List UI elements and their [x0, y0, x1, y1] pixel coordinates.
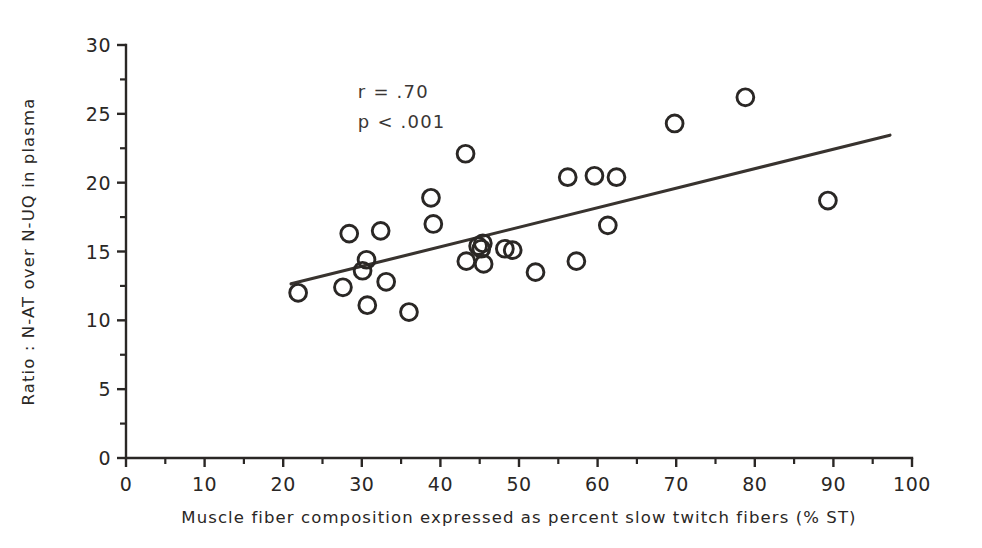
data-point	[599, 217, 616, 234]
axis-lines	[126, 45, 912, 458]
x-axis-tick-label: 80	[742, 473, 767, 495]
data-point	[666, 115, 683, 132]
annotation-correlation: r = .70	[358, 81, 429, 102]
annotation-pvalue: p < .001	[358, 111, 446, 132]
data-point	[568, 253, 585, 270]
x-axis-tick-label: 30	[349, 473, 374, 495]
data-point	[401, 304, 418, 321]
data-point	[586, 167, 603, 184]
data-point	[458, 253, 475, 270]
y-axis-tick-label: 20	[86, 172, 111, 194]
data-point	[290, 284, 307, 301]
data-point	[737, 89, 754, 106]
y-axis-tick-label: 25	[86, 103, 111, 125]
y-axis-tick-label: 15	[86, 241, 111, 263]
x-axis-tick-label: 60	[585, 473, 610, 495]
data-point	[559, 169, 576, 186]
data-point	[335, 279, 352, 296]
y-axis-title: Ratio : N-AT over N-UQ in plasma	[19, 98, 38, 406]
x-axis-tick-label: 70	[664, 473, 689, 495]
x-axis-tick-label: 0	[120, 473, 133, 495]
scatter-plot-figure: 0510152025300102030405060708090100r = .7…	[0, 0, 982, 548]
chart-canvas: 0510152025300102030405060708090100r = .7…	[0, 0, 982, 548]
data-point	[423, 189, 440, 206]
x-axis-tick-label: 100	[893, 473, 931, 495]
data-point	[425, 216, 442, 233]
y-axis-tick-label: 10	[86, 309, 111, 331]
data-point	[819, 192, 836, 209]
x-axis-tick-label: 20	[271, 473, 296, 495]
x-axis-tick-label: 40	[428, 473, 453, 495]
regression-line	[291, 135, 890, 284]
x-axis-tick-label: 10	[192, 473, 217, 495]
data-point	[378, 273, 395, 290]
x-axis-tick-label: 90	[821, 473, 846, 495]
x-axis-title: Muscle fiber composition expressed as pe…	[181, 508, 856, 527]
y-axis-tick-label: 30	[86, 34, 111, 56]
y-axis-tick-label: 5	[98, 378, 111, 400]
data-point	[341, 225, 358, 242]
data-point	[608, 169, 625, 186]
data-point	[372, 222, 389, 239]
y-axis-tick-label: 0	[98, 447, 111, 469]
x-axis-tick-label: 50	[506, 473, 531, 495]
data-point	[527, 264, 544, 281]
data-point	[359, 297, 376, 314]
data-point	[457, 145, 474, 162]
